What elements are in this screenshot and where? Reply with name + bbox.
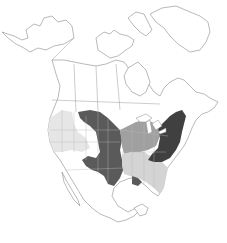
greenland [150, 6, 210, 52]
range-map [0, 0, 227, 243]
north-america-map [0, 0, 227, 243]
baffin-island [128, 12, 152, 36]
arctic-islands [96, 30, 134, 58]
alaska [2, 16, 74, 52]
